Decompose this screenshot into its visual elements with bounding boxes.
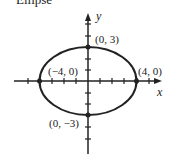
y-axis xyxy=(85,13,91,154)
ellipse-diagram: y x (0, 3) (4, 0) (−4, 0) (0, −3) xyxy=(0,0,172,159)
y-axis-label: y xyxy=(95,9,102,23)
x-axis-label: x xyxy=(156,85,163,99)
point-label-top: (0, 3) xyxy=(95,33,119,46)
point-label-right: (4, 0) xyxy=(138,65,162,78)
point-label-left: (−4, 0) xyxy=(48,65,78,78)
point-label-bottom: (0, −3) xyxy=(49,117,79,130)
